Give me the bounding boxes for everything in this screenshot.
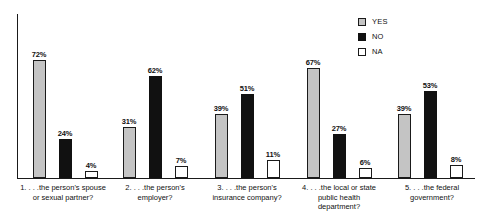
category-number-2: 2.: [125, 183, 131, 192]
bar-value-label: 62%: [148, 66, 163, 75]
bar-group-1: 72% 24% 4%: [17, 14, 109, 178]
bar-group-2: 31% 62% 7%: [109, 14, 201, 178]
legend-swatch-no-icon: [358, 33, 366, 41]
bar-wrap-na: 11%: [260, 14, 286, 178]
bar-na: [267, 160, 280, 178]
bar-no: [333, 134, 346, 178]
legend-item-no: NO: [358, 30, 428, 43]
category-label-3: 3. . . .the person's insurance company?: [201, 183, 293, 202]
category-text-3-line1: . . .the person's: [226, 183, 277, 192]
bar-value-label: 8%: [451, 155, 462, 164]
bar-value-label: 7%: [176, 156, 187, 165]
bar-wrap-na: 7%: [168, 14, 194, 178]
bar-na: [359, 168, 372, 178]
bar-value-label: 67%: [306, 58, 321, 67]
legend-swatch-na-icon: [358, 48, 366, 56]
bar-na: [450, 165, 463, 178]
bar-no: [149, 76, 162, 178]
bar-na: [175, 166, 188, 178]
bar-value-label: 39%: [214, 104, 229, 113]
bar-value-label: 72%: [32, 50, 47, 59]
bar-wrap-na: 8%: [443, 14, 469, 178]
bar-value-label: 24%: [58, 129, 73, 138]
category-label-5: 5. . . .the federal government?: [385, 183, 479, 202]
category-text-3-line2: insurance company?: [203, 193, 291, 203]
bar-yes: [307, 68, 320, 178]
category-text-2-line1: . . .the person's: [134, 183, 185, 192]
bar-value-label: 53%: [423, 81, 438, 90]
category-label-1: 1. . . .the person's spouse or sexual pa…: [17, 183, 109, 202]
bar-value-label: 51%: [240, 84, 255, 93]
category-text-4-line3: department?: [295, 202, 383, 212]
bar-value-label: 27%: [332, 124, 347, 133]
bar-value-label: 4%: [86, 161, 97, 170]
bar-yes: [398, 114, 411, 178]
chart-legend: YES NO NA: [358, 15, 428, 60]
category-text-4-line2: public health: [295, 193, 383, 203]
bar-no: [59, 139, 72, 178]
bar-wrap-no: 27%: [326, 14, 352, 178]
x-axis-line: [17, 178, 475, 179]
bar-value-label: 11%: [266, 150, 280, 159]
bar-yes: [215, 114, 228, 178]
bar-no: [424, 91, 437, 178]
category-number-5: 5.: [405, 183, 411, 192]
bar-wrap-yes: 67%: [300, 14, 326, 178]
bar-no: [241, 94, 254, 178]
bar-wrap-yes: 72%: [26, 14, 52, 178]
legend-label-na: NA: [372, 47, 383, 56]
category-text-2-line2: employer?: [111, 193, 199, 203]
bar-na: [85, 171, 98, 178]
legend-label-no: NO: [372, 32, 384, 41]
category-label-4: 4. . . .the local or state public health…: [293, 183, 385, 212]
bar-value-label: 39%: [397, 104, 412, 113]
category-labels: 1. . . .the person's spouse or sexual pa…: [17, 183, 479, 214]
category-text-1-line1: . . .the person's spouse: [29, 183, 106, 192]
bar-value-label: 6%: [360, 158, 371, 167]
bar-yes: [33, 60, 46, 178]
bar-wrap-na: 4%: [78, 14, 104, 178]
legend-swatch-yes-icon: [358, 18, 366, 26]
bar-group-3: 39% 51% 11%: [201, 14, 293, 178]
bar-yes: [123, 127, 136, 178]
bar-wrap-no: 24%: [52, 14, 78, 178]
category-text-5-line2: government?: [387, 193, 477, 203]
legend-label-yes: YES: [372, 17, 388, 26]
bar-wrap-yes: 39%: [208, 14, 234, 178]
category-text-1-line2: or sexual partner?: [19, 193, 107, 203]
bar-chart: 72% 24% 4% 31% 62%: [0, 0, 483, 214]
bar-wrap-no: 51%: [234, 14, 260, 178]
category-label-2: 2. . . .the person's employer?: [109, 183, 201, 202]
category-number-3: 3.: [217, 183, 223, 192]
bar-wrap-yes: 31%: [116, 14, 142, 178]
bar-value-label: 31%: [122, 117, 137, 126]
category-text-5-line1: . . .the federal: [413, 183, 459, 192]
legend-item-na: NA: [358, 45, 428, 58]
category-number-4: 4.: [302, 183, 308, 192]
category-text-4-line1: . . .the local or state: [310, 183, 375, 192]
category-number-1: 1.: [20, 183, 26, 192]
legend-item-yes: YES: [358, 15, 428, 28]
bar-wrap-no: 62%: [142, 14, 168, 178]
